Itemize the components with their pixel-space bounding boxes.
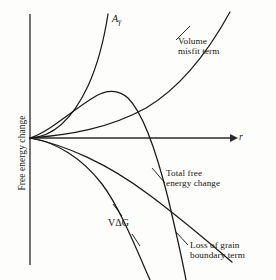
curve-label-volume-misfit: Volume misfit term: [178, 36, 219, 57]
x-axis-arrowhead: [230, 134, 238, 142]
plot-canvas: [0, 0, 276, 280]
y-axis-label: Free energy change: [17, 95, 27, 211]
free-energy-diagram: Aγ Volume misfit term Total free energy …: [0, 0, 276, 280]
curve-total-free-energy: [30, 91, 186, 280]
curve-label-volume-free-energy: VΔG: [108, 218, 129, 228]
curve-label-surface-energy: Aγ: [112, 14, 121, 27]
surface-energy-subscript: γ: [118, 17, 121, 26]
curve-volume-misfit: [30, 12, 230, 138]
curve-volume-free-energy: [30, 138, 150, 280]
curve-label-loss-grain-boundary: Loss of grain boundary term: [190, 240, 245, 261]
leader-line-vdg-upper: [113, 204, 122, 216]
curve-surface-energy: [30, 14, 108, 138]
leader-line-total-free-energy: [152, 168, 165, 183]
x-axis-label: r: [239, 131, 243, 142]
curve-label-total-free-energy: Total free energy change: [166, 168, 220, 189]
